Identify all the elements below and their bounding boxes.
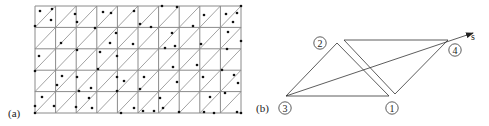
data-point — [150, 26, 153, 29]
data-point — [227, 31, 230, 34]
data-point — [97, 68, 100, 71]
data-point — [202, 76, 205, 79]
cell-diagonal — [220, 6, 241, 27]
data-point — [115, 32, 118, 35]
data-point — [132, 43, 135, 46]
cell-diagonal — [35, 49, 56, 70]
node-4: 4 — [449, 44, 461, 56]
cell-diagonal — [220, 49, 241, 70]
data-point — [34, 105, 37, 108]
data-point — [110, 12, 113, 15]
data-point — [116, 55, 119, 58]
data-point — [53, 105, 56, 108]
data-point — [232, 21, 235, 24]
node-label: 4 — [453, 45, 458, 56]
arrow-label-s: s — [471, 31, 475, 42]
cell-diagonal — [97, 70, 118, 91]
data-point — [139, 88, 142, 91]
data-point — [41, 96, 44, 99]
cell-diagonal — [179, 49, 200, 70]
cell-diagonal — [76, 92, 97, 113]
data-point — [34, 25, 37, 28]
data-point — [224, 92, 227, 95]
data-point — [76, 49, 79, 52]
cell-diagonal — [117, 27, 138, 48]
cell-diagonal — [179, 70, 200, 91]
data-point — [240, 40, 243, 43]
data-point — [225, 13, 228, 16]
cell-diagonal — [138, 27, 159, 48]
data-point — [162, 107, 165, 110]
triangle-3-2-1 — [286, 43, 389, 96]
data-point — [213, 112, 216, 115]
data-point — [76, 76, 79, 79]
cell-diagonal — [56, 6, 77, 27]
cell-diagonal — [159, 70, 180, 91]
node-3: 3 — [279, 102, 291, 114]
cell-diagonal — [56, 49, 77, 70]
cell-diagonal — [179, 92, 200, 113]
data-point — [159, 97, 162, 100]
cell-diagonal — [56, 92, 77, 113]
cell-diagonal — [200, 70, 221, 91]
data-point — [192, 25, 195, 28]
data-point — [102, 11, 105, 14]
data-point — [56, 84, 59, 87]
data-point — [133, 107, 136, 110]
data-point — [139, 23, 142, 26]
cell-diagonal — [138, 92, 159, 113]
data-point — [34, 112, 37, 115]
figure-canvas: (a) s 1234 (b) — [0, 0, 489, 126]
panel-b-label: (b) — [256, 102, 269, 115]
data-point — [240, 5, 243, 8]
cell-diagonal — [200, 92, 221, 113]
data-point — [60, 42, 63, 45]
data-point — [88, 97, 91, 100]
cell-diagonal — [97, 27, 118, 48]
data-point — [236, 12, 239, 15]
panel-b-triangle-diagram: s 1234 (b) — [256, 31, 475, 115]
data-point — [39, 10, 42, 13]
cell-diagonal — [35, 92, 56, 113]
data-point — [200, 43, 203, 46]
data-point — [203, 14, 206, 17]
data-point — [161, 5, 164, 8]
node-label: 2 — [318, 38, 323, 49]
data-point — [34, 70, 37, 73]
cell-diagonal — [200, 27, 221, 48]
node-label: 1 — [390, 103, 395, 114]
data-point — [209, 96, 212, 99]
data-point — [94, 27, 97, 30]
data-point — [196, 64, 199, 67]
data-point — [221, 69, 224, 72]
cell-diagonal — [117, 49, 138, 70]
data-point — [123, 80, 126, 83]
cell-diagonal — [179, 6, 200, 27]
cell-diagonal — [76, 27, 97, 48]
data-point — [237, 82, 240, 85]
data-point — [78, 90, 81, 93]
cell-diagonal — [117, 92, 138, 113]
triangle-top-4-bottom — [344, 40, 448, 94]
cell-diagonal — [117, 6, 138, 27]
panel-a-triangulated-grid: (a) — [8, 5, 242, 120]
data-point — [233, 74, 236, 77]
panel-a-label: (a) — [8, 107, 21, 120]
cell-diagonal — [35, 27, 56, 48]
cell-diagonal — [56, 27, 77, 48]
data-point — [116, 76, 119, 79]
data-point — [178, 111, 181, 114]
data-point — [38, 55, 41, 58]
data-point — [109, 42, 112, 45]
data-point — [76, 21, 79, 24]
data-point — [75, 106, 78, 109]
data-point — [174, 45, 177, 48]
cell-diagonal — [159, 49, 180, 70]
cell-diagonal — [56, 70, 77, 91]
data-point — [51, 8, 54, 11]
cell-diagonal — [35, 70, 56, 91]
data-point — [153, 110, 156, 113]
data-point — [74, 13, 77, 16]
cell-diagonal — [220, 70, 241, 91]
data-point — [120, 112, 123, 115]
